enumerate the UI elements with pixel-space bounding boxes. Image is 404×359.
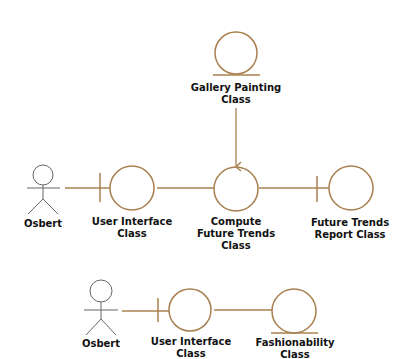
report-label-line2: Report Class [314,229,385,240]
user-interface-boundary-top: User Interface Class [92,166,173,239]
actor-osbert-bottom: Osbert [82,280,120,349]
entity-class-icon [271,289,318,333]
compute-label-line3: Class [221,240,250,251]
gallery-painting-label-line1: Gallery Painting [191,82,281,93]
user-interface-label-line2: Class [117,228,146,239]
gallery-painting-entity: Gallery Painting Class [191,32,281,105]
user-interface-boundary-bottom: User Interface Class [151,289,232,359]
fashionability-label-line1: Fashionability [256,337,335,348]
gallery-painting-label-line2: Class [221,94,250,105]
user-interface-label-line1: User Interface [92,216,173,227]
compute-label-line2: Future Trends [197,228,275,239]
fashionability-label-line2: Class [280,349,309,359]
boundary-class-icon [317,166,373,210]
stick-figure-actor-icon [27,165,60,214]
boundary-class-icon [158,289,211,331]
user-interface-bottom-label-line1: User Interface [151,336,232,347]
stick-figure-actor-icon [84,280,118,335]
entity-class-icon [213,32,260,75]
fashionability-entity: Fashionability Class [256,289,335,359]
control-class-icon [214,162,258,211]
future-trends-report-boundary: Future Trends Report Class [311,166,389,240]
user-interface-bottom-label-line2: Class [176,348,205,359]
boundary-class-icon [100,166,154,210]
collaboration-diagram: Gallery Painting Class Osbert User Inter… [0,0,404,359]
actor-osbert-bottom-label: Osbert [82,338,120,349]
compute-label-line1: Compute [211,216,262,227]
report-label-line1: Future Trends [311,217,389,228]
compute-future-trends-control: Compute Future Trends Class [197,162,275,251]
actor-osbert-label: Osbert [24,218,62,229]
actor-osbert-top: Osbert [24,165,62,229]
